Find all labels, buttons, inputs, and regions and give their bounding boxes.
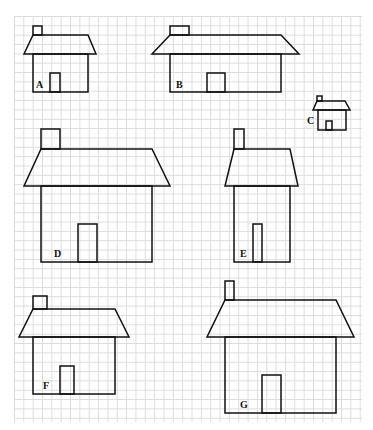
door bbox=[78, 224, 97, 262]
door bbox=[50, 73, 60, 92]
roof bbox=[24, 35, 96, 54]
roof bbox=[313, 101, 350, 110]
door bbox=[253, 224, 262, 262]
house-a: A bbox=[24, 26, 96, 92]
house-label: D bbox=[54, 248, 61, 259]
door bbox=[262, 375, 281, 413]
chimney bbox=[234, 129, 244, 149]
door bbox=[207, 73, 225, 92]
house-b: B bbox=[152, 26, 299, 92]
house-c: C bbox=[307, 96, 350, 130]
house-g: G bbox=[207, 281, 354, 413]
house-label: G bbox=[240, 399, 248, 410]
chimney bbox=[225, 281, 234, 300]
house-label: E bbox=[240, 248, 247, 259]
house-d: D bbox=[24, 129, 170, 262]
house-label: A bbox=[36, 79, 44, 90]
house-label: C bbox=[307, 115, 314, 126]
door bbox=[326, 121, 332, 130]
house-e: E bbox=[225, 129, 298, 262]
roof bbox=[152, 35, 299, 54]
house-label: F bbox=[43, 380, 49, 391]
roof bbox=[24, 149, 170, 186]
house-label: B bbox=[176, 79, 183, 90]
house-f: F bbox=[19, 296, 129, 394]
roof bbox=[19, 309, 129, 337]
chimney bbox=[170, 26, 189, 35]
chimney bbox=[33, 26, 42, 35]
door bbox=[60, 366, 74, 394]
houses-figure: ABCDEFG bbox=[0, 0, 373, 430]
chimney bbox=[33, 296, 47, 309]
roof bbox=[207, 300, 354, 337]
chimney bbox=[41, 129, 60, 149]
roof bbox=[225, 149, 298, 186]
